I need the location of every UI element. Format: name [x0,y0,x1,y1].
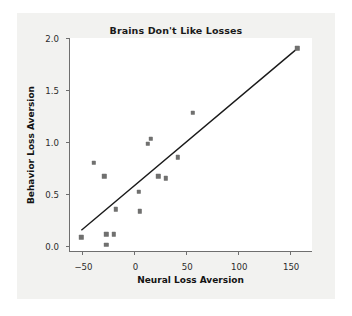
y-tick: 0.0 [66,246,70,247]
data-point [190,111,194,115]
y-axis-label: Behavior Loss Aversion [26,86,36,204]
x-tick: 50 [186,251,187,255]
y-tick-label: 1.5 [45,86,59,96]
y-tick: 1.0 [66,142,70,143]
x-tick-label: 100 [231,262,247,272]
data-point [156,174,160,178]
x-tick: 0 [134,251,135,255]
x-tick-label: 150 [283,262,299,272]
data-point [176,155,180,159]
data-point [104,243,108,247]
data-point [79,235,83,239]
x-tick: 150 [290,251,291,255]
y-tick-label: 1.0 [45,138,59,148]
data-point [295,46,299,50]
x-tick-label: 50 [182,262,193,272]
data-points-layer [70,38,312,251]
y-tick: 0.5 [66,194,70,195]
y-tick-label: 0.0 [45,242,59,252]
x-tick-label: 0 [133,262,138,272]
data-point [102,174,106,178]
data-point [104,232,108,236]
data-point [163,176,167,180]
y-tick-label: 2.0 [45,34,59,44]
data-point [136,190,140,194]
x-tick: −50 [82,251,83,255]
data-point [92,160,96,164]
x-tick-label: −50 [74,262,92,272]
y-tick: 1.5 [66,90,70,91]
plot-area: 0.00.51.01.52.0 −50050100150 [69,38,312,252]
figure-panel: Brains Don't Like Losses Behavior Loss A… [17,13,335,299]
data-point [113,207,117,211]
data-point [146,142,150,146]
data-point [137,209,141,213]
x-axis-label: Neural Loss Aversion [69,275,312,285]
data-point [149,137,153,141]
y-tick-label: 0.5 [45,190,59,200]
chart-title: Brains Don't Like Losses [17,25,335,36]
data-point [111,232,115,236]
x-tick: 100 [238,251,239,255]
y-tick: 2.0 [66,38,70,39]
